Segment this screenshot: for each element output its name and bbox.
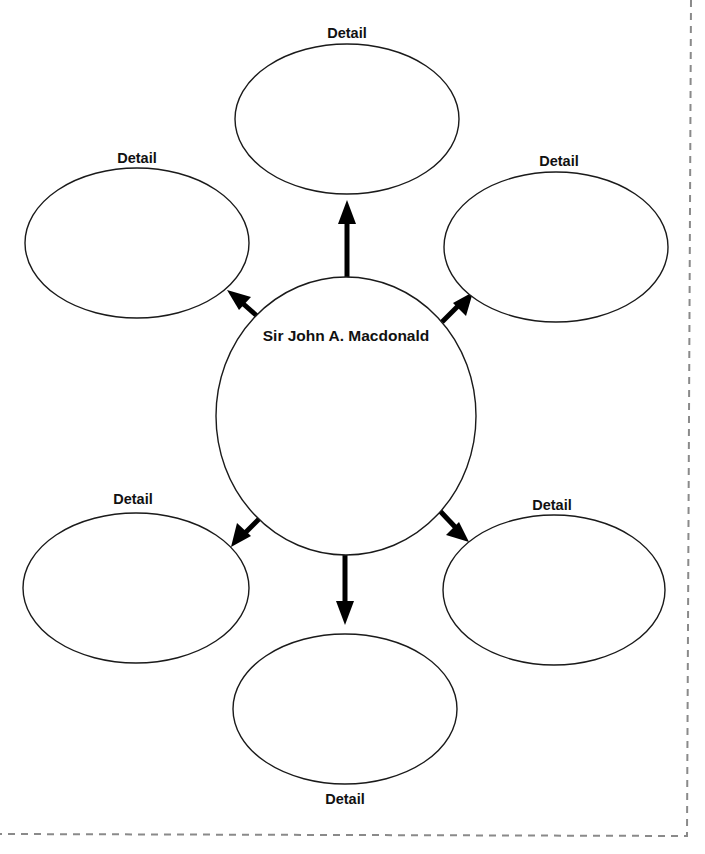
detail-label: Detail bbox=[117, 150, 157, 166]
detail-bubble[interactable] bbox=[233, 634, 457, 784]
central-topic-label: Sir John A. Macdonald bbox=[263, 327, 430, 344]
detail-node-lower-right: Detail bbox=[443, 497, 665, 665]
detail-node-upper-right: Detail bbox=[444, 153, 668, 322]
connector-bottom bbox=[336, 555, 354, 625]
connector-lower-left bbox=[231, 519, 259, 547]
detail-label: Detail bbox=[532, 497, 572, 513]
detail-bubble[interactable] bbox=[444, 172, 668, 322]
detail-label: Detail bbox=[327, 25, 367, 41]
detail-bubble[interactable] bbox=[23, 513, 249, 663]
detail-bubble[interactable] bbox=[235, 44, 459, 194]
arrow-shaft bbox=[440, 511, 457, 529]
arrow-head-icon bbox=[336, 601, 354, 625]
detail-label: Detail bbox=[325, 791, 365, 807]
arrow-head-icon bbox=[446, 522, 469, 542]
detail-node-lower-left: Detail bbox=[23, 491, 249, 663]
connector-upper-right bbox=[442, 292, 473, 322]
detail-bubble[interactable] bbox=[25, 168, 249, 318]
detail-label: Detail bbox=[113, 491, 153, 507]
arrow-head-icon bbox=[338, 200, 356, 224]
detail-node-upper-left: Detail bbox=[25, 150, 249, 318]
connector-lower-right bbox=[440, 511, 469, 542]
detail-label: Detail bbox=[539, 153, 579, 169]
detail-bubble[interactable] bbox=[443, 515, 665, 665]
connector-upper-left bbox=[227, 290, 257, 316]
detail-node-top: Detail bbox=[235, 25, 459, 194]
detail-node-bottom: Detail bbox=[233, 634, 457, 807]
central-circle[interactable] bbox=[216, 277, 476, 555]
concept-web-diagram: Sir John A. Macdonald Detail Detail Deta… bbox=[0, 0, 705, 854]
central-node: Sir John A. Macdonald bbox=[216, 277, 476, 555]
connector-top bbox=[338, 200, 356, 278]
